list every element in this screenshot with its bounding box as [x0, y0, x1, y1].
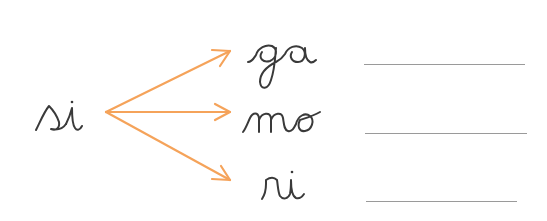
source-syllable-si: [36, 101, 82, 130]
exercise-drawing: [0, 0, 547, 221]
arrow-to-ga: [106, 50, 230, 112]
target-syllable-ga: [248, 45, 316, 87]
answer-line-ri[interactable]: [366, 201, 517, 202]
answer-line-mo[interactable]: [365, 133, 527, 134]
target-syllable-ri: [262, 171, 304, 199]
arrow-right-icon: [106, 112, 230, 180]
target-syllable-mo: [243, 112, 320, 132]
arrow-to-ri: [106, 112, 230, 180]
answer-line-ga[interactable]: [364, 64, 525, 65]
arrow-right-icon: [106, 51, 230, 112]
syllable-matching-exercise: si ga mo ri: [0, 0, 547, 221]
arrow-to-mo: [106, 104, 230, 120]
